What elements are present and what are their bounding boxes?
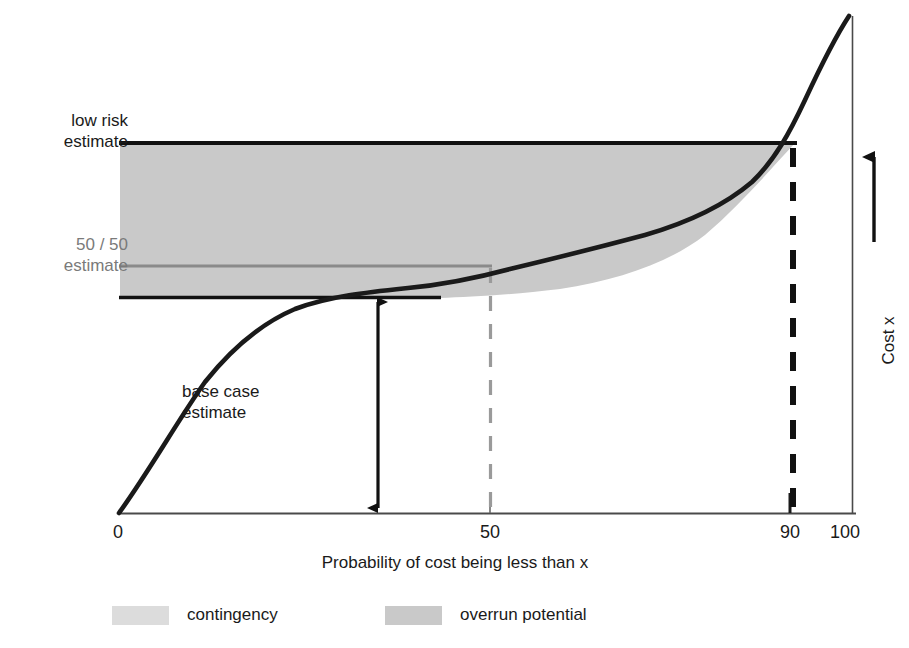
legend-item-overrun-potential: overrun potential (385, 600, 587, 630)
y-axis-title: Cost x (878, 281, 899, 401)
x-tick-label-90: 90 (772, 522, 808, 543)
legend-label-overrun-potential: overrun potential (460, 605, 587, 625)
low-risk-estimate-label: low risk estimate (10, 110, 128, 152)
fifty-fifty-estimate-label: 50 / 50 estimate (10, 234, 128, 276)
legend-label-contingency: contingency (187, 605, 278, 625)
band-region (120, 143, 795, 298)
x-tick-label-0: 0 (100, 522, 136, 543)
cost-probability-s-curve-chart (0, 0, 909, 648)
legend-swatch-overrun-potential (385, 606, 442, 625)
shaded-band-group (120, 143, 795, 298)
x-tick-label-100: 100 (824, 522, 866, 543)
x-axis-title: Probability of cost being less than x (230, 552, 680, 573)
legend-item-contingency: contingency (112, 600, 278, 630)
base-case-estimate-label: base case estimate (182, 381, 332, 423)
chart-legend: contingency overrun potential (0, 600, 909, 636)
legend-swatch-contingency (112, 606, 169, 625)
x-tick-label-50: 50 (472, 522, 508, 543)
